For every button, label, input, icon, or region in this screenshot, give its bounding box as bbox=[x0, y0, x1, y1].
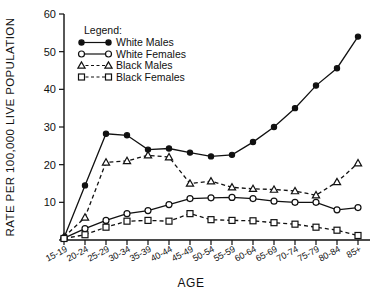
data-point-filled-circle bbox=[334, 66, 339, 71]
line-chart: 102030405060RATE PER 100,000 LIVE POPULA… bbox=[0, 0, 374, 292]
legend-item-label: White Males bbox=[116, 36, 174, 48]
data-point-open-circle bbox=[355, 205, 361, 211]
y-tick-label: 10 bbox=[44, 196, 56, 208]
axes-group bbox=[64, 14, 370, 240]
data-point-filled-circle bbox=[82, 183, 87, 188]
data-point-filled-circle bbox=[124, 133, 129, 138]
data-point-open-circle bbox=[145, 208, 151, 214]
data-point-open-circle bbox=[250, 196, 256, 202]
data-point-filled-circle bbox=[103, 131, 108, 136]
legend-title: Legend: bbox=[84, 24, 122, 36]
data-point-open-triangle bbox=[102, 159, 109, 165]
series-black-females bbox=[61, 211, 361, 242]
data-point-filled-circle bbox=[355, 34, 360, 39]
data-point-open-circle bbox=[313, 199, 319, 205]
data-point-filled-circle bbox=[229, 152, 234, 157]
legend-item-label: Black Males bbox=[116, 59, 173, 71]
legend-item-white-females[interactable]: White Females bbox=[79, 48, 187, 60]
data-point-open-circle bbox=[208, 195, 214, 201]
data-point-open-circle bbox=[271, 198, 277, 204]
legend-item-black-males[interactable]: Black Males bbox=[78, 59, 173, 71]
data-point-open-circle bbox=[82, 226, 88, 232]
data-point-open-triangle bbox=[105, 62, 112, 68]
legend-item-white-males[interactable]: White Males bbox=[79, 36, 174, 48]
legend-item-black-females[interactable]: Black Females bbox=[79, 71, 185, 83]
data-point-filled-circle bbox=[292, 106, 297, 111]
data-point-open-square bbox=[229, 217, 235, 223]
data-point-open-square bbox=[79, 74, 85, 80]
data-point-open-circle bbox=[79, 51, 85, 57]
data-point-open-triangle bbox=[81, 214, 88, 220]
legend-item-label: Black Females bbox=[116, 71, 185, 83]
data-point-open-square bbox=[166, 218, 172, 224]
data-point-open-square bbox=[250, 218, 256, 224]
data-point-open-square bbox=[271, 220, 277, 226]
axis-lines bbox=[64, 14, 370, 240]
chart-canvas: 102030405060RATE PER 100,000 LIVE POPULA… bbox=[0, 0, 374, 292]
legend-item-label: White Females bbox=[116, 48, 186, 60]
y-tick-label: 40 bbox=[44, 83, 56, 95]
data-point-open-circle bbox=[106, 51, 112, 57]
data-point-open-square bbox=[145, 217, 151, 223]
data-point-open-triangle bbox=[144, 152, 151, 158]
y-tick-label: 60 bbox=[44, 8, 56, 20]
data-point-open-triangle bbox=[186, 180, 193, 186]
data-point-open-square bbox=[355, 232, 361, 238]
data-point-open-triangle bbox=[354, 160, 361, 166]
y-tick-label: 20 bbox=[44, 159, 56, 171]
data-point-open-square bbox=[106, 74, 112, 80]
legend: Legend:White MalesWhite FemalesBlack Mal… bbox=[78, 24, 186, 83]
data-point-filled-circle bbox=[313, 83, 318, 88]
data-point-open-circle bbox=[124, 211, 130, 217]
y-tick-label: 50 bbox=[44, 46, 56, 58]
data-point-open-square bbox=[187, 211, 193, 217]
data-point-filled-circle bbox=[166, 146, 171, 151]
data-point-open-square bbox=[82, 232, 88, 238]
data-point-open-circle bbox=[166, 202, 172, 208]
data-point-open-square bbox=[103, 224, 109, 230]
data-point-filled-circle bbox=[250, 139, 255, 144]
data-point-filled-circle bbox=[208, 154, 213, 159]
y-axis-ticks: 102030405060 bbox=[44, 8, 64, 240]
data-point-open-circle bbox=[103, 217, 109, 223]
data-point-open-circle bbox=[334, 207, 340, 213]
data-point-open-triangle bbox=[78, 62, 85, 68]
data-point-open-square bbox=[61, 235, 67, 241]
data-point-open-circle bbox=[292, 199, 298, 205]
x-tick-label: 80-84 bbox=[317, 244, 342, 264]
data-point-open-triangle bbox=[207, 178, 214, 184]
data-point-open-circle bbox=[187, 196, 193, 202]
data-point-open-square bbox=[292, 221, 298, 227]
data-point-open-square bbox=[124, 218, 130, 224]
y-tick-label: 30 bbox=[44, 121, 56, 133]
data-point-open-square bbox=[208, 217, 214, 223]
data-point-open-square bbox=[334, 227, 340, 233]
data-point-open-square bbox=[313, 224, 319, 230]
data-point-filled-circle bbox=[106, 40, 111, 45]
x-tick-label: 85+ bbox=[345, 244, 363, 260]
data-point-filled-circle bbox=[79, 40, 84, 45]
data-point-open-circle bbox=[229, 194, 235, 200]
data-point-open-triangle bbox=[333, 178, 340, 184]
x-axis-title: AGE bbox=[177, 276, 204, 290]
x-axis-ticks: 15-1920-2425-2930-3435-3940-4445-4950-54… bbox=[44, 240, 363, 264]
data-point-filled-circle bbox=[271, 124, 276, 129]
y-axis-title: RATE PER 100,000 LIVE POPULATION bbox=[4, 18, 16, 237]
data-point-filled-circle bbox=[187, 150, 192, 155]
